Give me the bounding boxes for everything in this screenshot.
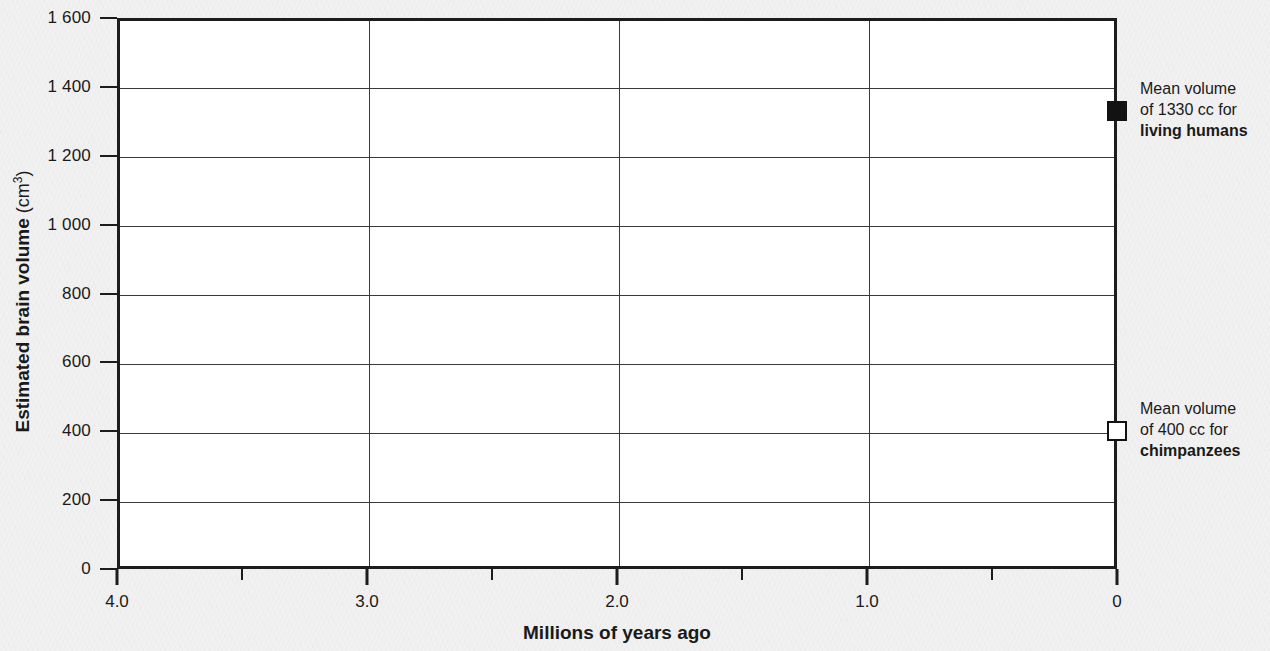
y-axis-unit: (cm3) (13, 170, 33, 213)
y-axis-unit-close: ) (13, 170, 33, 176)
gridline-vertical (869, 21, 870, 566)
x-axis-tick-label: 3.0 (355, 592, 379, 612)
y-axis-tick-mark (100, 361, 117, 363)
y-axis-unit-base: (cm (13, 183, 33, 213)
annotation-line-2: of 400 cc for (1140, 420, 1240, 441)
y-axis-tick-mark (100, 17, 117, 19)
annotation-humans: Mean volumeof 1330 cc forliving humans (1140, 79, 1248, 141)
gridline-horizontal (120, 157, 1114, 158)
x-axis-tick-label: 2.0 (605, 592, 629, 612)
y-axis-tick-label: 200 (62, 490, 91, 510)
annotation-line-1: Mean volume (1140, 399, 1240, 420)
x-axis-tick-mark-major (1116, 569, 1119, 585)
x-axis-tick-mark-minor (741, 569, 743, 580)
plot-area (117, 18, 1117, 569)
y-axis-tick-mark (100, 224, 117, 226)
gridline-horizontal (120, 364, 1114, 365)
x-axis-tick-mark-major (616, 569, 619, 585)
x-axis-title: Millions of years ago (117, 622, 1117, 644)
y-axis-tick-label: 400 (62, 421, 91, 441)
annotation-line-3-species: living humans (1140, 121, 1248, 142)
gridline-vertical (369, 21, 370, 566)
annotation-line-1: Mean volume (1140, 79, 1248, 100)
y-axis-tick-label: 0 (81, 559, 91, 579)
y-axis-tick-label: 800 (62, 284, 91, 304)
y-axis-tick-label: 600 (62, 352, 91, 372)
gridline-horizontal (120, 295, 1114, 296)
data-marker-chimpanzees[interactable] (1107, 421, 1127, 441)
x-axis-tick-mark-minor (991, 569, 993, 580)
y-axis-tick-label: 1 000 (47, 215, 91, 235)
y-axis-unit-exponent: 3 (11, 176, 25, 183)
x-axis-tick-mark-major (866, 569, 869, 585)
y-axis-tick-mark (100, 499, 117, 501)
x-axis-tick-mark-major (116, 569, 119, 585)
data-marker-humans[interactable] (1107, 101, 1127, 121)
y-axis-tick-mark (100, 430, 117, 432)
y-axis-tick-mark (100, 293, 117, 295)
x-axis-tick-label: 1.0 (855, 592, 879, 612)
y-axis-tick-mark (100, 86, 117, 88)
gridline-horizontal (120, 226, 1114, 227)
x-axis-tick-mark-minor (491, 569, 493, 580)
annotation-line-3-species: chimpanzees (1140, 441, 1240, 462)
gridline-horizontal (120, 433, 1114, 434)
annotation-line-2: of 1330 cc for (1140, 100, 1248, 121)
gridline-vertical (619, 21, 620, 566)
x-axis-tick-label: 0 (1112, 592, 1121, 612)
y-axis-tick-mark (100, 568, 117, 570)
y-axis-tick-label: 1 200 (47, 146, 91, 166)
y-axis-title-text: Estimated brain volume (12, 218, 33, 432)
y-axis-tick-label: 1 400 (47, 77, 91, 97)
y-axis-title: Estimated brain volume(cm3) (11, 22, 34, 582)
y-axis-tick-mark (100, 155, 117, 157)
y-axis-tick-label: 1 600 (47, 8, 91, 28)
x-axis-tick-mark-major (366, 569, 369, 585)
annotation-chimpanzees: Mean volumeof 400 cc forchimpanzees (1140, 399, 1240, 461)
chart-figure: 1 6001 4001 2001 0008006004002000 Estima… (0, 0, 1270, 651)
x-axis-tick-mark-minor (241, 569, 243, 580)
gridline-horizontal (120, 502, 1114, 503)
x-axis-tick-label: 4.0 (105, 592, 129, 612)
gridline-horizontal (120, 88, 1114, 89)
